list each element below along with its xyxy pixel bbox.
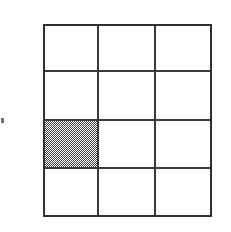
grid-cell-r1-c2	[99, 24, 155, 72]
grid-cell-r2-c1	[43, 72, 99, 120]
grid-cell-r3-c3	[156, 121, 212, 169]
figure-canvas	[0, 0, 231, 232]
grid-cell-r4-c3	[156, 169, 212, 217]
grid-cell-r4-c1	[43, 169, 99, 217]
shaded-fraction-grid	[43, 24, 212, 217]
grid-cell-r1-c1	[43, 24, 99, 72]
scan-artifact-mark	[1, 118, 4, 123]
grid-cell-r2-c2	[99, 72, 155, 120]
grid-cell-r3-c1	[43, 121, 99, 169]
grid-cell-r4-c2	[99, 169, 155, 217]
grid-cell-r2-c3	[156, 72, 212, 120]
grid-cell-r1-c3	[156, 24, 212, 72]
grid-cell-r3-c2	[99, 121, 155, 169]
